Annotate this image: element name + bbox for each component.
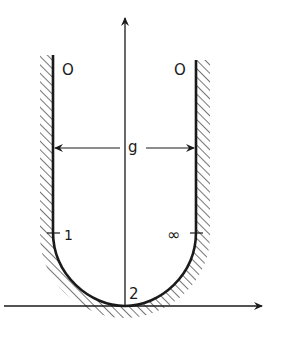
label-top-right: O	[174, 61, 186, 79]
label-top-left: O	[62, 61, 74, 79]
label-gap: g	[128, 138, 138, 156]
label-point-infinity: ∞	[167, 225, 180, 244]
label-point-1: 1	[64, 227, 73, 243]
label-point-2: 2	[129, 285, 139, 303]
u-channel-diagram: O O g 1 ∞ 2	[0, 0, 287, 346]
